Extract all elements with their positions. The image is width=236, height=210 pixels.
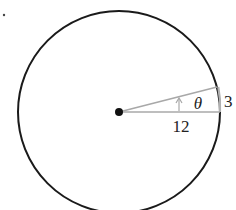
center-point [115,108,123,116]
circle-diagram: θ 3 12 [0,0,236,210]
arc-length-label: 3 [224,92,233,111]
angle-label: θ [194,94,202,113]
radius-label: 12 [173,117,190,136]
radius-line-angled [119,87,217,112]
stray-mark [3,14,5,16]
